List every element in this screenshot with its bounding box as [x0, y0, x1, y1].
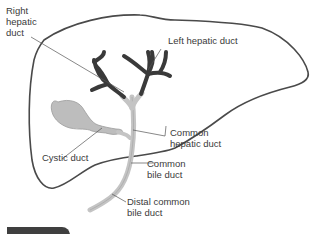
- label-left-hepatic-duct: Left hepatic duct: [168, 35, 238, 46]
- caption-bar: [7, 227, 70, 234]
- label-common-bile-duct: Common bile duct: [147, 158, 186, 180]
- label-common-hepatic-duct: Common hepatic duct: [170, 127, 221, 149]
- right-hepatic-ducts: [92, 52, 124, 97]
- leader-lines: [31, 37, 166, 202]
- label-right-hepatic-duct: Right hepatic duct: [6, 5, 37, 38]
- common-bile-duct-edge: [90, 97, 134, 210]
- biliary-anatomy-diagram: Right hepatic duct Left hepatic duct Cys…: [0, 0, 322, 234]
- label-distal-common-bile-duct: Distal common bile duct: [127, 196, 190, 218]
- label-cystic-duct: Cystic duct: [42, 152, 88, 163]
- left-hepatic-ducts: [124, 52, 170, 94]
- gallbladder: [51, 100, 122, 134]
- common-bile-duct: [90, 97, 134, 210]
- cystic-duct: [118, 132, 130, 138]
